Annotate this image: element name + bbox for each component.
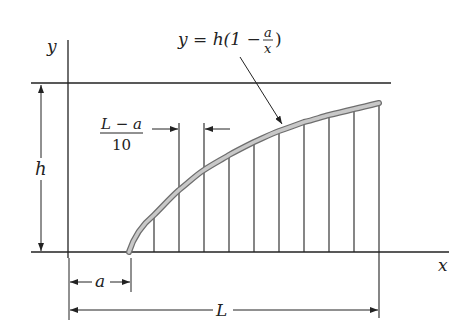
equation-close-paren: ) <box>275 29 282 49</box>
area-under-curve-diagram: y x y = h(1 − a x ) L − a 10 h a L <box>0 0 466 336</box>
equation-label: y = h(1 − <box>177 29 261 49</box>
x-axis-label: x <box>438 255 448 275</box>
y-axis-label: y <box>46 36 57 56</box>
L-dimension-label: L <box>215 300 227 320</box>
equation-leader-arrow <box>240 57 282 124</box>
h-dimension-label: h <box>35 158 47 179</box>
equation-frac-den: x <box>264 41 272 56</box>
equation-frac-num: a <box>264 25 272 40</box>
spacing-frac-num: L − a <box>100 115 142 133</box>
a-dimension-label: a <box>95 271 105 291</box>
spacing-frac-den: 10 <box>112 136 131 154</box>
